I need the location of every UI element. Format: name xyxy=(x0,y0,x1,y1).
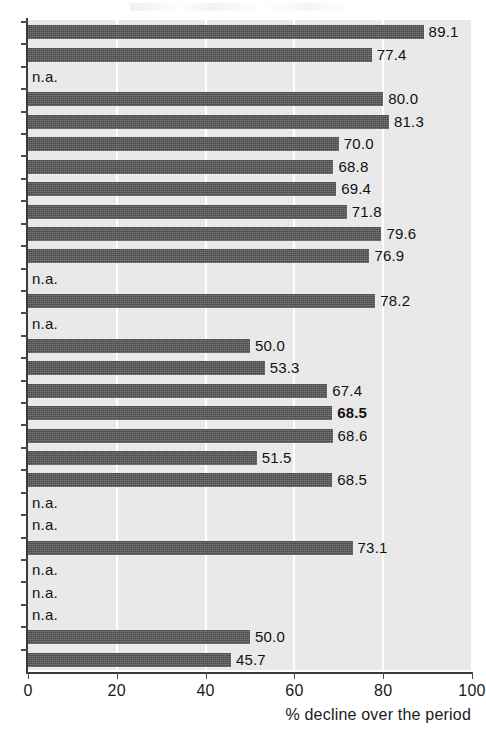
y-tick-17 xyxy=(21,380,28,382)
chart-row: 45.7 xyxy=(0,648,481,670)
value-label: 78.2 xyxy=(380,292,410,309)
chart-row: 79.6 xyxy=(0,222,481,244)
chart-row: 53.3 xyxy=(0,356,481,378)
x-tick-60 xyxy=(294,672,295,679)
bar xyxy=(28,339,250,353)
y-tick-11 xyxy=(21,245,28,247)
y-tick-22 xyxy=(21,492,28,494)
chart-row: 77.4 xyxy=(0,42,481,64)
value-label: 53.3 xyxy=(270,359,300,376)
chart-row: 68.8 xyxy=(0,154,481,176)
value-label: 51.5 xyxy=(262,449,292,466)
y-tick-16 xyxy=(21,357,28,359)
bar xyxy=(28,160,333,174)
bar xyxy=(28,92,383,106)
chart-row: 70.0 xyxy=(0,132,481,154)
chart-row: 68.5 xyxy=(0,401,481,423)
chart-row: 71.8 xyxy=(0,199,481,221)
bar xyxy=(28,25,424,39)
value-label: 89.1 xyxy=(429,23,459,40)
y-tick-12 xyxy=(21,268,28,270)
x-axis-title: % decline over the period xyxy=(285,706,471,724)
bar xyxy=(28,227,381,241)
x-tick-label-60: 60 xyxy=(285,682,303,700)
value-label: 68.8 xyxy=(338,158,368,175)
bar xyxy=(28,473,332,487)
bar xyxy=(28,115,389,129)
y-tick-24 xyxy=(21,537,28,539)
bar xyxy=(28,205,347,219)
chart-row: 78.2 xyxy=(0,289,481,311)
value-label: 45.7 xyxy=(236,651,266,668)
x-tick-label-100: 100 xyxy=(458,682,486,700)
value-label-na: n.a. xyxy=(32,68,58,85)
x-tick-40 xyxy=(206,672,207,679)
value-label-na: n.a. xyxy=(32,606,58,623)
x-tick-label-0: 0 xyxy=(23,682,32,700)
y-tick-13 xyxy=(21,290,28,292)
value-label-na: n.a. xyxy=(32,561,58,578)
y-tick-28 xyxy=(21,626,28,628)
chart-row: 69.4 xyxy=(0,177,481,199)
y-tick-15 xyxy=(21,335,28,337)
y-tick-20 xyxy=(21,447,28,449)
value-label-na: n.a. xyxy=(32,270,58,287)
chart-row: n.a. xyxy=(0,580,481,602)
value-label: 69.4 xyxy=(341,180,371,197)
value-label: 68.6 xyxy=(338,427,368,444)
chart-row: 51.5 xyxy=(0,446,481,468)
y-tick-9 xyxy=(21,200,28,202)
y-tick-18 xyxy=(21,402,28,404)
y-tick-25 xyxy=(21,559,28,561)
chart-row: 68.6 xyxy=(0,423,481,445)
value-label: 50.0 xyxy=(255,337,285,354)
y-tick-23 xyxy=(21,514,28,516)
x-tick-20 xyxy=(117,672,118,679)
chart-row: n.a. xyxy=(0,311,481,333)
bar xyxy=(28,249,369,263)
x-tick-label-40: 40 xyxy=(196,682,214,700)
x-tick-label-80: 80 xyxy=(374,682,392,700)
y-tick-3 xyxy=(21,66,28,68)
value-label: 77.4 xyxy=(377,46,407,63)
y-tick-26 xyxy=(21,581,28,583)
value-label: 67.4 xyxy=(332,382,362,399)
y-tick-10 xyxy=(21,223,28,225)
chart-row: 67.4 xyxy=(0,379,481,401)
value-label: 80.0 xyxy=(388,90,418,107)
x-tick-label-20: 20 xyxy=(108,682,126,700)
chart-row: 80.0 xyxy=(0,87,481,109)
chart-row: n.a. xyxy=(0,513,481,535)
y-tick-6 xyxy=(21,133,28,135)
bar xyxy=(28,653,231,667)
value-label: 73.1 xyxy=(358,539,388,556)
bar xyxy=(28,630,250,644)
bar xyxy=(28,182,336,196)
value-label-na: n.a. xyxy=(32,315,58,332)
chart-row: 68.5 xyxy=(0,468,481,490)
scan-artifact xyxy=(130,3,350,11)
y-tick-2 xyxy=(21,43,28,45)
chart-row: n.a. xyxy=(0,603,481,625)
y-tick-19 xyxy=(21,424,28,426)
chart-row: 73.1 xyxy=(0,536,481,558)
chart-row: 81.3 xyxy=(0,110,481,132)
bar xyxy=(28,406,332,420)
value-label: 81.3 xyxy=(394,113,424,130)
chart-row: n.a. xyxy=(0,267,481,289)
x-tick-100 xyxy=(472,672,473,679)
value-label-na: n.a. xyxy=(32,516,58,533)
bar xyxy=(28,541,353,555)
chart-row: 50.0 xyxy=(0,334,481,356)
bar xyxy=(28,429,333,443)
bar xyxy=(28,294,375,308)
bar xyxy=(28,451,257,465)
chart-row: n.a. xyxy=(0,491,481,513)
y-tick-21 xyxy=(21,469,28,471)
chart-row: 50.0 xyxy=(0,625,481,647)
y-tick-1 xyxy=(21,21,28,23)
value-label: 50.0 xyxy=(255,628,285,645)
chart-row: 76.9 xyxy=(0,244,481,266)
y-tick-5 xyxy=(21,111,28,113)
